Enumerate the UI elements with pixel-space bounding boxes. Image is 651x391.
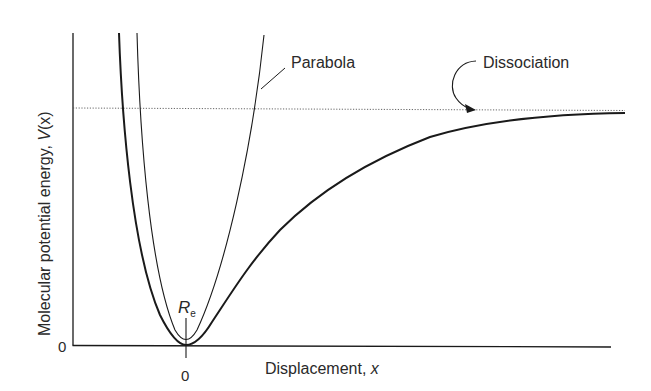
potential-energy-diagram: Molecular potential energy, V(x) 0 0 Dis… [0,0,651,391]
arrowhead-icon [465,104,476,113]
x-tick-zero: 0 [181,367,189,384]
dissociation-label: Dissociation [483,54,569,71]
y-tick-zero: 0 [58,338,66,355]
parabola-curve [137,33,264,340]
x-axis [73,346,612,348]
parabola-leader-line [261,68,285,89]
morse-potential-curve [119,33,625,345]
re-label: Re [178,298,196,319]
x-axis-label: Displacement, x [265,360,380,377]
y-axis-label: Molecular potential energy, V(x) [36,111,53,336]
dissociation-arrow [452,61,476,109]
parabola-label: Parabola [291,54,355,71]
dissociation-asymptote [73,108,625,111]
